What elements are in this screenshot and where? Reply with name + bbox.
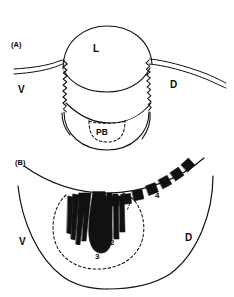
- label-structure-1: 1: [76, 239, 80, 247]
- label-dorsal-a: D: [170, 80, 177, 90]
- diagram-canvas: [0, 0, 234, 297]
- panel-a-drawing: [14, 26, 226, 150]
- label-ventral-b: V: [19, 237, 26, 247]
- ventral-membrane-lower: [14, 64, 64, 74]
- block-4-outer-a: [132, 189, 144, 201]
- lumen-outline: [63, 26, 152, 69]
- panel-b-tag: (B): [15, 159, 26, 167]
- label-lumen: L: [93, 44, 99, 54]
- ventral-membrane-upper: [14, 60, 64, 69]
- label-structure-3: 3: [95, 253, 99, 261]
- block-4-outer-e: [181, 158, 195, 172]
- inner-shield-arc: [66, 103, 151, 123]
- junction-zigzag-right: [146, 60, 151, 110]
- figure-root: (A) L V D PB (B) V D 1 2 3 4 4: [0, 0, 234, 297]
- panel-b-drawing: [18, 158, 213, 289]
- label-structure-4-inner: 4: [114, 207, 118, 215]
- lumen-floor: [64, 68, 150, 92]
- label-photophore-bulb: PB: [96, 128, 108, 137]
- block-4-inner-a: [107, 196, 119, 206]
- label-structure-4-outer: 4: [155, 192, 159, 200]
- block-4-outer-c: [158, 175, 172, 189]
- label-ventral-a: V: [18, 85, 25, 95]
- label-dorsal-b: D: [185, 233, 192, 243]
- panel-a-tag: (A): [11, 41, 22, 49]
- label-structure-2: 2: [110, 239, 114, 247]
- dorsal-membrane-upper: [150, 59, 226, 83]
- block-4-inner-b: [121, 194, 132, 205]
